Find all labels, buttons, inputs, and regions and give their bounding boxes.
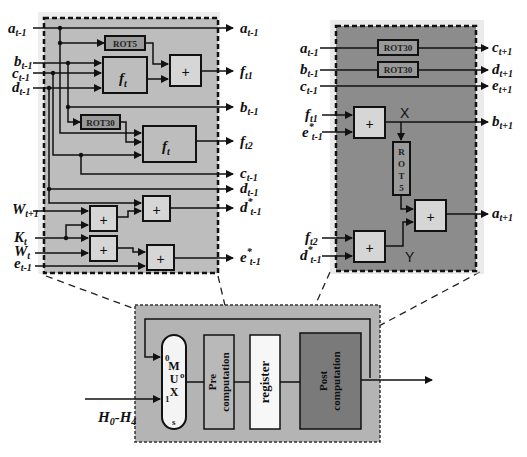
r-input-e-star: e*t-1	[302, 121, 323, 142]
input-h-label: H0-H4	[97, 409, 136, 427]
bottom-panel-pipeline: H0-H4 0 1 o s M U X Pre computation regi…	[85, 305, 432, 442]
post-label-1: Post	[317, 371, 329, 392]
output-ft2: ft2	[240, 133, 253, 151]
left-output-labels: at-1 ft1 bt-1 ft2 ct-1 dt-1 d*t-1 e*t-1	[240, 20, 262, 267]
node-y-label: Y	[405, 249, 415, 265]
node-x-label: X	[400, 105, 410, 121]
output-d-star: d*t-1	[240, 196, 262, 217]
adder-d-star-symbol: +	[152, 202, 160, 218]
mux-letter-x: X	[170, 385, 179, 399]
output-a: at-1	[240, 20, 259, 38]
r-input-c: ct-1	[300, 78, 318, 96]
sha1-architecture-diagram: ROT5 ft + ROT30 ft	[0, 0, 527, 457]
mux-port-o: o	[180, 370, 185, 380]
rot5-label: ROT5	[113, 39, 138, 49]
adder-1-symbol: +	[181, 64, 189, 80]
left-input-labels: at-1 bt-1 ct-1 dt-1 Wt+1 Kt Wt et-1	[8, 20, 39, 273]
adder-w1-symbol: +	[99, 212, 107, 228]
adder-e-star-symbol: +	[156, 251, 164, 267]
post-label-2: computation	[330, 351, 342, 410]
left-panel-precomputation-detail: ROT5 ft + ROT30 ft	[8, 12, 262, 274]
output-ft1: ft1	[240, 63, 253, 81]
adder-b-out-symbol: +	[365, 116, 373, 132]
r-output-b: bt+1	[492, 113, 513, 131]
r-output-c: ct+1	[492, 39, 512, 57]
rot5-v-r: R	[398, 147, 405, 157]
mux-port-s: s	[172, 417, 176, 427]
rot30-left-label: ROT30	[86, 118, 115, 128]
rot5-v-5: 5	[399, 183, 404, 193]
pre-label-2: computation	[219, 352, 231, 411]
adder-y-symbol: +	[365, 240, 373, 256]
mux-letter-m: M	[168, 359, 179, 373]
rot5-v-t: T	[398, 171, 404, 181]
r-input-d-star: d*t-1	[300, 244, 322, 265]
r-output-e: et+1	[492, 77, 512, 95]
r-input-a: at-1	[300, 40, 319, 58]
adder-a-out-symbol: +	[426, 209, 434, 225]
output-b: bt-1	[240, 99, 259, 117]
input-a: at-1	[8, 20, 27, 38]
r-output-a: at+1	[492, 205, 513, 223]
register-label: register	[257, 361, 272, 404]
right-input-labels: at-1 bt-1 ct-1 ft1 e*t-1 ft2 d*t-1	[300, 40, 323, 265]
mux-letter-u: U	[170, 372, 179, 386]
input-w-t1: Wt+1	[12, 201, 39, 219]
r-input-b: bt-1	[300, 61, 319, 79]
right-output-labels: ct+1 dt+1 et+1 bt+1 at+1	[492, 39, 513, 223]
rot30-right-1-label: ROT30	[384, 43, 413, 53]
output-e-star: e*t-1	[240, 246, 261, 267]
rot5-v-o: O	[398, 159, 405, 169]
rot30-right-2-label: ROT30	[384, 65, 413, 75]
pre-label-1: Pre	[206, 374, 218, 390]
right-panel-postcomputation-detail: ROT30 ROT30 + X R O T 5 + + Y at-1 bt-1	[300, 20, 513, 274]
adder-w2-symbol: +	[99, 242, 107, 258]
